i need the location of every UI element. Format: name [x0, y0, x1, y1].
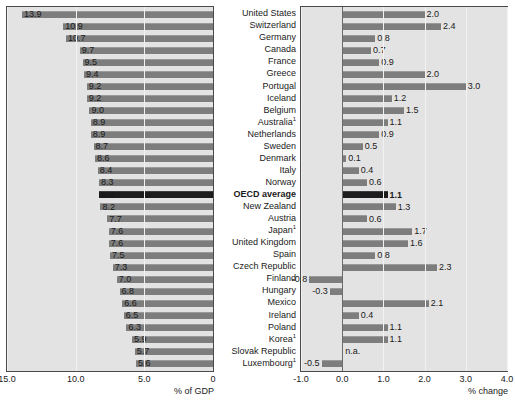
- bar-value-label: 7.6: [111, 237, 124, 249]
- bar-value-label: 1.1: [390, 333, 403, 345]
- bar-row: 10.7: [7, 32, 213, 44]
- data-bar: [87, 83, 213, 90]
- gridline: [144, 7, 145, 371]
- bar-row: 9.2: [7, 81, 213, 93]
- right-bar-rows: 2.02.40.80.70.92.03.01.21.51.10.90.50.10…: [301, 7, 507, 371]
- bar-row: 2.3: [301, 261, 507, 273]
- data-bar: [342, 167, 358, 174]
- bar-row: 7.6: [7, 237, 213, 249]
- bar-value-label: 7.3: [115, 261, 128, 273]
- bar-row: 1.7: [301, 225, 507, 237]
- bar-row: 2.4: [301, 20, 507, 32]
- bar-row: 9.4: [7, 68, 213, 80]
- data-bar: [330, 288, 342, 295]
- data-bar: [63, 23, 213, 30]
- country-label: Korea1: [214, 333, 296, 345]
- data-bar: [91, 119, 213, 126]
- bar-value-label: 8.2: [102, 201, 115, 213]
- bar-row: 0.4: [301, 310, 507, 322]
- bar-value-label: 2.0: [427, 68, 440, 80]
- bar-row: 9.0: [7, 105, 213, 117]
- right-axis-title: % change: [468, 385, 508, 397]
- bar-row: 3.0: [301, 81, 507, 93]
- bar-row: 0.9: [301, 56, 507, 68]
- data-bar: [113, 264, 213, 271]
- data-bar: [342, 215, 367, 222]
- bar-value-label: 9.0: [91, 104, 104, 116]
- country-label: OECD average: [214, 188, 296, 200]
- data-bar: [80, 47, 213, 54]
- bar-value-label: 7.7: [109, 213, 122, 225]
- bar-value-label: 7.5: [112, 249, 125, 261]
- data-bar: [342, 143, 363, 150]
- data-bar: [342, 203, 396, 210]
- country-label: New Zealand: [214, 200, 296, 212]
- data-bar: [342, 191, 387, 198]
- gridline: [76, 7, 77, 371]
- bar-value-label: 1.1: [390, 116, 403, 128]
- bar-row: 0.6: [301, 213, 507, 225]
- data-bar: [95, 155, 213, 162]
- data-bar: [91, 131, 213, 138]
- country-label: United States: [214, 7, 296, 19]
- bar-row: 9.2: [7, 93, 213, 105]
- bar-value-label: 7.0: [119, 273, 132, 285]
- bar-value-label: 1.1: [390, 321, 403, 333]
- country-label: Spain: [214, 248, 296, 260]
- country-label: Mexico: [214, 296, 296, 308]
- bar-row: 6.6: [7, 297, 213, 309]
- data-bar: [87, 95, 213, 102]
- bar-row: 9.7: [7, 44, 213, 56]
- country-label: Denmark: [214, 152, 296, 164]
- bar-value-label: 9.4: [86, 68, 99, 80]
- country-label: Hungary: [214, 284, 296, 296]
- axis-tick-label: 3.0: [460, 373, 473, 385]
- data-bar: [110, 252, 213, 259]
- left-chart-panel: 13.910.910.79.79.59.49.29.29.08.98.98.78…: [6, 6, 214, 372]
- gridline: [425, 7, 426, 371]
- country-label: Ireland: [214, 309, 296, 321]
- bar-row: 5.9: [7, 334, 213, 346]
- gridline: [7, 7, 8, 371]
- bar-row: 0.6: [301, 177, 507, 189]
- data-bar: [66, 35, 213, 42]
- country-label: Australia1: [214, 116, 296, 128]
- country-label: Italy: [214, 164, 296, 176]
- bar-row: 0.4: [301, 165, 507, 177]
- data-bar: [109, 228, 213, 235]
- bar-row: 2.0: [301, 8, 507, 20]
- bar-row: 8.9: [7, 129, 213, 141]
- bar-row: 10.9: [7, 20, 213, 32]
- country-label: Canada: [214, 43, 296, 55]
- gridline: [466, 7, 467, 371]
- data-bar: [342, 252, 375, 259]
- bar-row: -0.3: [301, 285, 507, 297]
- country-label: Portugal: [214, 80, 296, 92]
- country-label: Switzerland: [214, 19, 296, 31]
- bar-row: 0.7: [301, 44, 507, 56]
- data-bar: [342, 264, 437, 271]
- country-label: Czech Republic: [214, 260, 296, 272]
- bar-value-label: 8.9: [93, 116, 106, 128]
- data-bar: [342, 107, 404, 114]
- axis-tick-label: 5.0: [138, 373, 151, 385]
- axis-tick-label: -1.0: [293, 373, 309, 385]
- data-bar: [94, 143, 213, 150]
- bar-row: 1.1: [301, 117, 507, 129]
- country-label: Netherlands: [214, 128, 296, 140]
- axis-tick-label: 0: [210, 373, 215, 385]
- right-chart-panel: 2.02.40.80.70.92.03.01.21.51.10.90.50.10…: [300, 6, 508, 372]
- data-bar: [342, 119, 387, 126]
- data-bar: [342, 83, 466, 90]
- bar-value-label: 13.9: [24, 8, 42, 20]
- bar-row: 0.8: [301, 32, 507, 44]
- bar-value-label: 10.9: [65, 20, 83, 32]
- data-bar: [109, 240, 213, 247]
- gridline: [507, 7, 508, 371]
- bar-row: 5.7: [7, 346, 213, 358]
- data-bar: [342, 336, 387, 343]
- bar-value-label: 0.6: [369, 176, 382, 188]
- data-bar: [322, 360, 343, 367]
- data-bar: [84, 71, 213, 78]
- axis-tick-label: 0.0: [336, 373, 349, 385]
